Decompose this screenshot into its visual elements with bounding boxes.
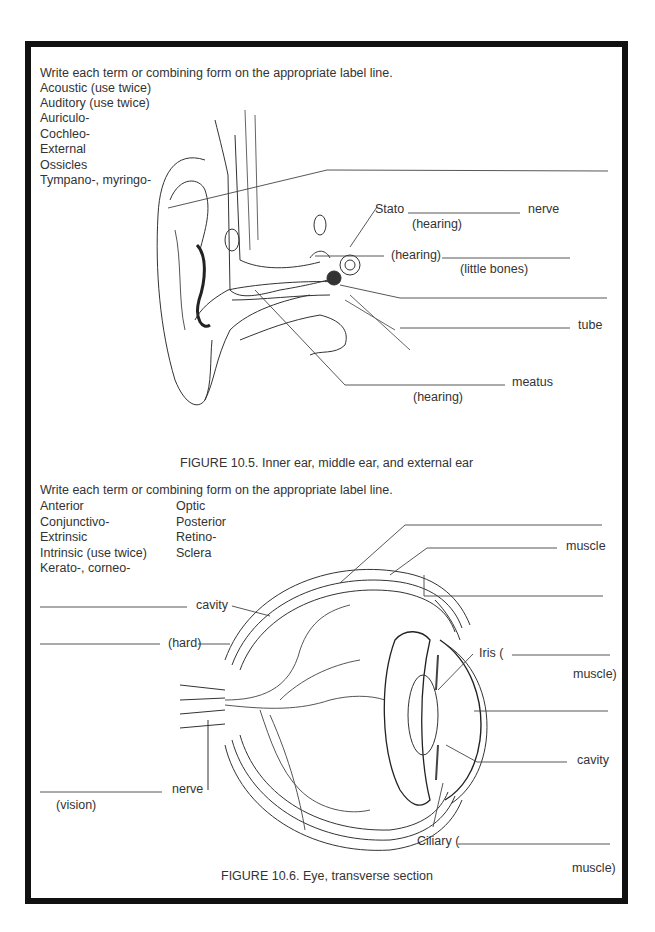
ear-term: Ossicles — [40, 158, 87, 173]
label-cavity-right: cavity — [577, 753, 609, 768]
label-hard: (hard) — [168, 636, 201, 651]
label-ciliary-muscle: muscle) — [572, 861, 616, 876]
label-hearing-1: (hearing) — [412, 217, 462, 232]
eye-term: Optic — [176, 499, 205, 514]
label-tube: tube — [578, 318, 602, 333]
label-optic-nerve: nerve — [172, 782, 203, 797]
ear-instruction: Write each term or combining form on the… — [40, 66, 393, 81]
eye-term: Retino- — [176, 530, 216, 545]
ear-term: Cochleo- — [40, 127, 90, 142]
ear-term: Tympano-, myringo- — [40, 173, 151, 188]
ear-term: External — [40, 142, 86, 157]
label-vision: (vision) — [56, 798, 96, 813]
ear-term: Auditory (use twice) — [40, 96, 150, 111]
eye-term: Anterior — [40, 499, 84, 514]
label-iris: Iris ( — [479, 646, 503, 661]
label-meatus: meatus — [512, 375, 553, 390]
label-hearing-2: (hearing) — [391, 248, 441, 263]
ear-term: Auriculo- — [40, 111, 89, 126]
label-hearing-3: (hearing) — [413, 390, 463, 405]
label-ciliary: Ciliary ( — [417, 834, 459, 849]
label-little-bones: (little bones) — [460, 262, 528, 277]
eye-term: Posterior — [176, 515, 226, 530]
eye-term: Extrinsic — [40, 530, 87, 545]
label-stato: Stato — [375, 202, 404, 217]
ear-term: Acoustic (use twice) — [40, 81, 151, 96]
eye-instruction: Write each term or combining form on the… — [40, 483, 393, 498]
figure-10-6-caption: FIGURE 10.6. Eye, transverse section — [221, 869, 433, 884]
label-cavity-left: cavity — [196, 598, 228, 613]
label-nerve: nerve — [528, 202, 559, 217]
eye-term: Conjunctivo- — [40, 515, 109, 530]
eye-term: Sclera — [176, 546, 211, 561]
label-iris-muscle: muscle) — [573, 667, 617, 682]
eye-term: Kerato-, corneo- — [40, 561, 130, 576]
label-muscle-top: muscle — [566, 539, 606, 554]
figure-10-5-caption: FIGURE 10.5. Inner ear, middle ear, and … — [180, 456, 473, 471]
ear-illustration — [157, 110, 410, 405]
eye-term: Intrinsic (use twice) — [40, 546, 147, 561]
